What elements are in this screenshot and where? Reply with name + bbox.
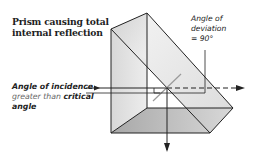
reflected-arrow-icon xyxy=(164,143,170,152)
incidence-angle-arc xyxy=(154,88,160,93)
dashed-arrow-icon xyxy=(236,85,245,91)
prism-diagram xyxy=(0,0,258,163)
incident-arrow-icon xyxy=(94,86,100,91)
